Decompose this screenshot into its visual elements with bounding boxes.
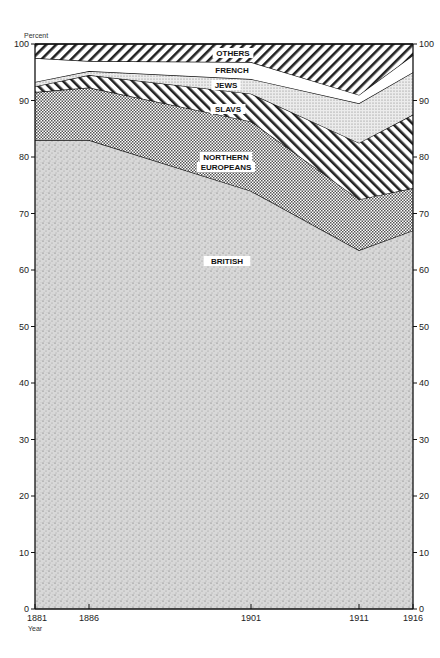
y-tick-label: 30 bbox=[19, 435, 29, 445]
y-tick-label-right: 50 bbox=[419, 322, 429, 332]
stacked-area-chart: 0102030405060708090100010203040506070809… bbox=[0, 0, 440, 658]
y-tick-label-right: 10 bbox=[419, 548, 429, 558]
label-europeans: EUROPEANS bbox=[201, 163, 252, 172]
y-tick-label-right: 70 bbox=[419, 209, 429, 219]
y-tick-label: 70 bbox=[19, 209, 29, 219]
x-tick-label: 1886 bbox=[79, 613, 99, 623]
y-tick-label: 90 bbox=[19, 96, 29, 106]
y-tick-label-right: 40 bbox=[419, 378, 429, 388]
y-axis-title: Percent bbox=[24, 32, 48, 39]
y-tick-label: 100 bbox=[14, 39, 29, 49]
x-tick-label: 1911 bbox=[349, 613, 368, 623]
y-tick-label: 50 bbox=[19, 322, 29, 332]
label-northern: NORTHERN bbox=[203, 153, 249, 162]
x-tick-label: 1881 bbox=[27, 613, 47, 623]
y-tick-label: 60 bbox=[19, 265, 29, 275]
y-tick-label: 20 bbox=[19, 491, 29, 501]
label-slavs: SLAVS bbox=[215, 105, 242, 114]
y-tick-label-right: 20 bbox=[419, 491, 429, 501]
y-tick-label-right: 30 bbox=[419, 435, 429, 445]
label-jews: JEWS bbox=[215, 81, 238, 90]
y-tick-label: 10 bbox=[19, 548, 29, 558]
y-tick-label-right: 90 bbox=[419, 96, 429, 106]
y-tick-label: 80 bbox=[19, 152, 29, 162]
y-tick-label-right: 60 bbox=[419, 265, 429, 275]
x-tick-label: 1901 bbox=[241, 613, 261, 623]
label-others: OTHERS bbox=[216, 49, 250, 58]
y-tick-label-right: 80 bbox=[419, 152, 429, 162]
y-tick-label-right: 100 bbox=[419, 39, 434, 49]
label-french: FRENCH bbox=[215, 66, 249, 75]
y-tick-label: 40 bbox=[19, 378, 29, 388]
label-british: BRITISH bbox=[211, 257, 243, 266]
x-axis-title: Year bbox=[28, 625, 43, 632]
area-layers bbox=[35, 44, 413, 609]
x-tick-label: 1916 bbox=[403, 613, 423, 623]
